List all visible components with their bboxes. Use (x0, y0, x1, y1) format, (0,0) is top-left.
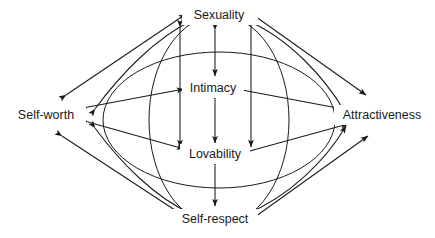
vertical-ellipse (149, 15, 289, 225)
edge-self-worth-intimacy (88, 89, 184, 107)
curved-edges (95, 20, 346, 214)
node-label-intimacy: Intimacy (190, 81, 237, 95)
node-self-worth: Self-worth (8, 105, 86, 125)
edge-lovability-attractiveness (246, 124, 348, 152)
horizontal-ellipse (103, 52, 335, 188)
node-label-lovability: Lovability (189, 147, 242, 161)
edge-sexuality-attractiveness (252, 14, 366, 95)
node-self-respect: Self-respect (172, 209, 258, 229)
node-labels: Sexuality Self-worth Attractiveness Inti… (8, 5, 432, 229)
edge-sexuality-attractiveness-curved (246, 20, 345, 112)
inner-lateral-edges (88, 89, 348, 152)
node-intimacy: Intimacy (182, 78, 244, 98)
edge-self-worth-lovability (88, 122, 184, 149)
edge-self-worth-sexuality-curved (95, 20, 193, 109)
node-label-attractiveness: Attractiveness (343, 108, 422, 122)
node-label-self-respect: Self-respect (182, 212, 249, 226)
edge-self-worth-self-respect (62, 136, 184, 216)
edge-self-respect-attractiveness-curved (246, 126, 346, 214)
edge-self-worth-self-respect-curved (95, 128, 192, 214)
edge-self-worth-sexuality (66, 14, 186, 95)
diagram-canvas: Sexuality Self-worth Attractiveness Inti… (0, 0, 435, 238)
edge-self-respect-attractiveness (252, 136, 368, 219)
node-label-self-worth: Self-worth (18, 108, 74, 122)
node-lovability: Lovability (180, 144, 250, 164)
node-label-sexuality: Sexuality (194, 8, 245, 22)
node-sexuality: Sexuality (182, 5, 258, 25)
concept-diagram: Sexuality Self-worth Attractiveness Inti… (0, 0, 435, 238)
node-attractiveness: Attractiveness (334, 105, 432, 125)
